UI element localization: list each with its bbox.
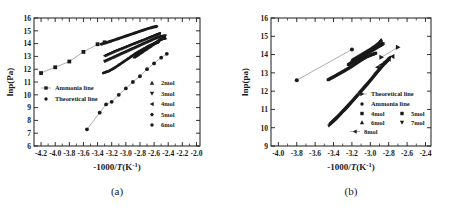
legend-label: 8mol: [364, 128, 378, 135]
data-point: [82, 50, 86, 54]
series-4mol: [327, 52, 378, 81]
data-series-group: [39, 25, 169, 132]
data-point: [96, 42, 100, 46]
series-theoretical-line: [85, 52, 169, 131]
legend-marker-triangle-up: [360, 120, 364, 124]
data-point: [53, 65, 57, 69]
x-tick-label: -2.2: [176, 149, 188, 158]
legend-marker-diamond: [150, 112, 154, 116]
legend-label: 4mol: [161, 100, 175, 107]
plot-frame: [271, 18, 431, 146]
y-tick-label: 15: [23, 27, 31, 36]
panel-caption: (a): [111, 185, 124, 198]
x-axis-title: -1000/T(K-1): [93, 161, 141, 173]
x-tick-label: -3.6: [77, 149, 89, 158]
x-tick-label: -2.0: [190, 149, 202, 158]
y-tick-label: 12: [23, 65, 31, 74]
legend-marker-square: [360, 112, 363, 115]
series-8mol-upper: [375, 54, 394, 70]
legend-item-right-2: 4mol: [150, 100, 175, 107]
data-point: [379, 55, 384, 60]
data-point: [374, 52, 377, 55]
x-tick-label: -2.4: [419, 149, 431, 158]
data-point: [295, 78, 299, 82]
x-tick-label: -3.2: [106, 149, 118, 158]
data-series-group: [295, 38, 401, 128]
series-3mol: [103, 35, 167, 64]
legend-marker-square: [400, 112, 403, 115]
legend-item-b-2-0: 4mol: [360, 110, 384, 117]
legend-item-right-4: 6mol: [150, 121, 174, 128]
data-point: [157, 41, 160, 44]
x-tick-label: -4.2: [35, 149, 47, 158]
legend-label: 2mol: [161, 79, 175, 86]
data-point: [159, 56, 163, 60]
panel-a-plot: -4.2-4.0-3.8-3.6-3.4-3.2-3.0-2.8-2.6-2.4…: [0, 0, 231, 211]
legend-item-b-4-0: 8mol: [350, 128, 378, 135]
plot-frame: [34, 18, 200, 146]
x-tick-label: -3.4: [92, 149, 104, 158]
legend-item-left-1: Theoretical line: [44, 95, 98, 102]
x-tick-label: -3.6: [309, 149, 321, 158]
x-tick-label: -2.4: [162, 149, 174, 158]
data-point: [98, 111, 102, 115]
data-point: [124, 87, 128, 91]
legend-item-left-0: Ammonia line: [41, 84, 94, 91]
data-point: [67, 60, 71, 64]
y-tick-label: 15: [260, 32, 268, 41]
data-point: [382, 42, 385, 45]
legend-marker-triangle-left: [353, 129, 357, 133]
y-tick-label: 11: [24, 78, 31, 87]
series-line-ammonia-line: [297, 49, 352, 80]
legend-label: 4mol: [371, 110, 385, 117]
legend-item-right-1: 3mol: [150, 90, 175, 97]
legend-marker-triangle-down: [150, 92, 154, 96]
legend-label: 5mol: [411, 110, 425, 117]
data-point: [396, 45, 401, 50]
legend-label: 5mol: [161, 111, 175, 118]
data-point: [145, 67, 149, 71]
x-tick-label: -3.4: [328, 149, 340, 158]
legend-marker-triangle-up: [150, 81, 154, 85]
legend-marker-circle: [360, 102, 363, 105]
legend-label: Ammonia line: [55, 84, 94, 91]
series-5mol: [347, 42, 385, 66]
x-tick-label: -2.6: [148, 149, 160, 158]
x-tick-label: -3.8: [291, 149, 303, 158]
y-axis-title: lnp(Pa): [5, 68, 15, 97]
y-tick-label: 9: [264, 142, 268, 151]
x-tick-label: -2.8: [383, 149, 395, 158]
data-point: [104, 103, 108, 107]
legend-marker-square: [44, 86, 47, 89]
legend-label: Ammonia line: [371, 100, 410, 107]
y-tick-label: 6: [27, 142, 31, 151]
legend-marker-circle: [44, 97, 47, 100]
legend-marker-triangle-right: [360, 92, 364, 96]
data-point: [39, 71, 43, 75]
legend-item-right-0: 2mol: [150, 79, 175, 86]
y-tick-label: 10: [260, 124, 268, 133]
x-tick-label: -4.0: [272, 149, 284, 158]
legend-label: Theoretical line: [371, 90, 414, 97]
y-tick-label: 8: [27, 116, 31, 125]
y-tick-label: 14: [23, 39, 31, 48]
series-5mol: [99, 25, 158, 46]
panel-a: -4.2-4.0-3.8-3.6-3.4-3.2-3.0-2.8-2.6-2.4…: [0, 0, 231, 211]
y-tick-label: 7: [27, 129, 31, 138]
legend-item-b-3-0: 6mol: [360, 119, 385, 126]
data-point: [117, 93, 121, 97]
data-point: [85, 127, 89, 131]
x-tick-label: -4.0: [49, 149, 61, 158]
legend-item-b-1-0: Ammonia line: [360, 100, 409, 107]
data-point: [152, 62, 156, 66]
data-point: [110, 100, 114, 104]
x-tick-label: -2.6: [401, 149, 413, 158]
legend-marker-triangle-left: [150, 102, 154, 106]
y-axis-title: lnp(pa): [240, 68, 250, 96]
legend-label: 6mol: [371, 119, 385, 126]
x-tick-label: -3.0: [364, 149, 376, 158]
x-tick-label: -3.2: [346, 149, 358, 158]
legend-label: 6mol: [161, 121, 175, 128]
y-tick-label: 16: [260, 14, 268, 23]
figure-container: -4.2-4.0-3.8-3.6-3.4-3.2-3.0-2.8-2.6-2.4…: [0, 0, 462, 211]
